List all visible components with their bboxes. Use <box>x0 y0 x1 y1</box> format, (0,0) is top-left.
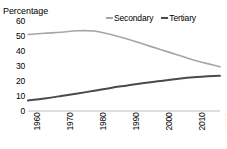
x-tick-label: 1960 <box>33 112 42 130</box>
line-chart: Percentage Secondary Tertiary 6050403020… <box>0 0 226 149</box>
x-tick-label: 1980 <box>99 112 108 130</box>
y-tick-label: 40 <box>3 47 25 56</box>
x-tick-label: 2010 <box>198 112 207 130</box>
x-tick-label: 2000 <box>165 112 174 130</box>
legend-swatch-secondary <box>106 17 113 19</box>
y-axis-tick-labels: 6050403020100 <box>0 21 25 111</box>
plot-svg <box>28 21 220 111</box>
y-tick-label: 30 <box>3 62 25 71</box>
y-axis-title: Percentage <box>3 6 48 17</box>
x-tick-label: 1990 <box>132 112 141 130</box>
x-axis-tick-labels: 1960197019801990200020102018 <box>28 112 220 149</box>
y-tick-label: 0 <box>3 107 25 116</box>
legend-swatch-tertiary <box>161 17 168 19</box>
x-tick-label: 2018 <box>225 112 227 130</box>
y-tick-label: 60 <box>3 17 25 26</box>
y-tick-label: 50 <box>3 32 25 41</box>
x-tick-label: 1970 <box>66 112 75 130</box>
series-line-tertiary <box>28 76 220 101</box>
series-line-secondary <box>28 31 220 67</box>
y-tick-label: 10 <box>3 92 25 101</box>
plot-area <box>28 21 220 111</box>
y-tick-label: 20 <box>3 77 25 86</box>
